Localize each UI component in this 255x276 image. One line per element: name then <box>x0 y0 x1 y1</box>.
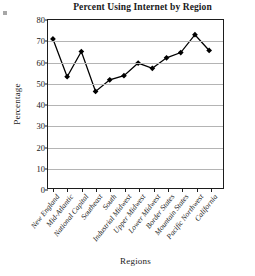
gridline <box>48 84 223 85</box>
y-axis-tick-mark <box>45 105 48 106</box>
chart-title: Percent Using Internet by Region <box>30 1 255 13</box>
y-axis-title: Percentage <box>11 19 23 189</box>
y-axis-tick-mark <box>45 126 48 127</box>
plot-area: 01020304050607080 <box>47 19 224 189</box>
y-axis-tick-mark <box>45 147 48 148</box>
y-axis-tick-label: 20 <box>37 143 46 152</box>
y-axis-tick-label: 60 <box>37 58 46 67</box>
y-axis-tick-mark <box>45 83 48 84</box>
y-axis-tick-label: 50 <box>37 79 46 88</box>
y-axis-tick-label: 80 <box>37 16 46 25</box>
data-point-marker <box>78 49 84 55</box>
y-axis-tick-label: 40 <box>37 101 46 110</box>
figure-container: Percent Using Internet by Region Percent… <box>0 0 255 276</box>
y-axis-tick-label: 70 <box>37 37 46 46</box>
x-axis-title: Regions <box>47 256 224 266</box>
y-axis-tick-mark <box>45 41 48 42</box>
y-axis-tick-mark <box>45 168 48 169</box>
y-axis-tick-mark <box>45 62 48 63</box>
data-point-marker <box>64 74 70 80</box>
y-axis-tick-mark <box>45 20 48 21</box>
gridline <box>48 169 223 170</box>
gridline <box>48 105 223 106</box>
y-axis-tick-label: 10 <box>37 164 46 173</box>
gridline <box>48 63 223 64</box>
gridline <box>48 148 223 149</box>
figure-number-marker <box>3 11 7 15</box>
y-axis-title-label: Percentage <box>12 83 22 124</box>
gridline <box>48 126 223 127</box>
x-axis-tick-labels: New EnglandMid-AtlanticNational CapitalS… <box>47 193 224 253</box>
y-axis-tick-mark <box>45 190 48 191</box>
gridline <box>48 41 223 42</box>
series-line-chart <box>48 20 223 188</box>
y-axis-tick-label: 30 <box>37 122 46 131</box>
